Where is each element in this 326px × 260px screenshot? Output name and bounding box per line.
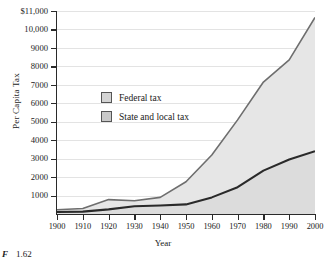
caption-figure-number: 1.62 [16,249,32,259]
legend-label-federal: Federal tax [119,93,161,103]
x-tick-label: 2000 [295,222,326,231]
y-tick-label: 3000 [0,154,48,163]
y-tick-label: 4000 [0,136,48,145]
y-tick-label: 10,000 [0,25,48,34]
figure-caption: F1.62 [2,249,32,259]
y-tick-label: 6000 [0,99,48,108]
x-tick-mark [263,214,264,220]
y-tick-label: 8000 [0,62,48,71]
x-tick-mark [109,214,110,220]
chart-figure: Per Capita Tax 1000200030004000500060007… [0,0,326,260]
x-tick-mark [57,214,58,220]
chart-legend: Federal tax State and local tax [101,88,189,126]
x-tick-mark [134,214,135,220]
y-tick-label: 2000 [0,173,48,182]
x-tick-mark [83,214,84,220]
x-tick-mark [186,214,187,220]
y-tick-label: 9000 [0,44,48,53]
legend-item-federal-tax: Federal tax [101,88,189,107]
y-tick-label: 5000 [0,117,48,126]
legend-label-state: State and local tax [119,112,189,122]
y-tick-label: 1000 [0,191,48,200]
y-tick-label: 7000 [0,81,48,90]
caption-figure-word: F [2,249,8,259]
x-tick-mark [315,214,316,220]
x-axis-title: Year [0,238,326,248]
x-tick-mark [238,214,239,220]
x-tick-mark [289,214,290,220]
legend-swatch-federal-icon [101,92,112,103]
legend-swatch-state-icon [101,111,112,122]
legend-item-state-local-tax: State and local tax [101,107,189,126]
y-tick-label: $11,000 [0,7,48,16]
x-tick-mark [160,214,161,220]
x-tick-mark [212,214,213,220]
